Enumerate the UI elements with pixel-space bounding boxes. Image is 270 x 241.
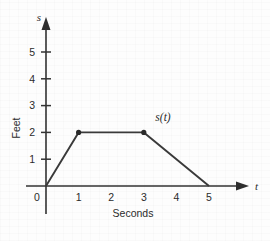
y-tick-label-3: 3 [29, 99, 35, 111]
x-tick-label-3: 3 [141, 191, 147, 203]
series-label: s(t) [155, 111, 171, 124]
chart-figure: 1 2 3 4 5 0 1 2 3 4 5 s(t) s t Feet Seco… [0, 0, 270, 241]
data-point-marker [76, 130, 81, 135]
y-tick-label-4: 4 [29, 73, 35, 85]
x-tick-label-5: 5 [206, 191, 212, 203]
line-chart-plot: 1 2 3 4 5 0 1 2 3 4 5 s(t) s t Feet Seco… [0, 0, 270, 241]
data-series-line [46, 132, 209, 186]
y-axis-arrow-icon [42, 17, 51, 30]
y-axis-variable-label: s [37, 11, 41, 23]
y-tick-label-2: 2 [29, 126, 35, 138]
y-tick-label-1: 1 [29, 153, 35, 165]
x-axis-arrow-icon [236, 182, 249, 191]
x-tick-label-4: 4 [173, 191, 179, 203]
x-axis-title: Seconds [113, 207, 154, 219]
x-tick-label-2: 2 [108, 191, 114, 203]
y-axis-title: Feet [10, 117, 22, 138]
x-tick-label-0: 0 [34, 191, 40, 203]
y-tick-label-5: 5 [29, 46, 35, 58]
x-axis-variable-label: t [255, 180, 259, 192]
data-point-marker [141, 130, 146, 135]
x-tick-label-1: 1 [76, 191, 82, 203]
